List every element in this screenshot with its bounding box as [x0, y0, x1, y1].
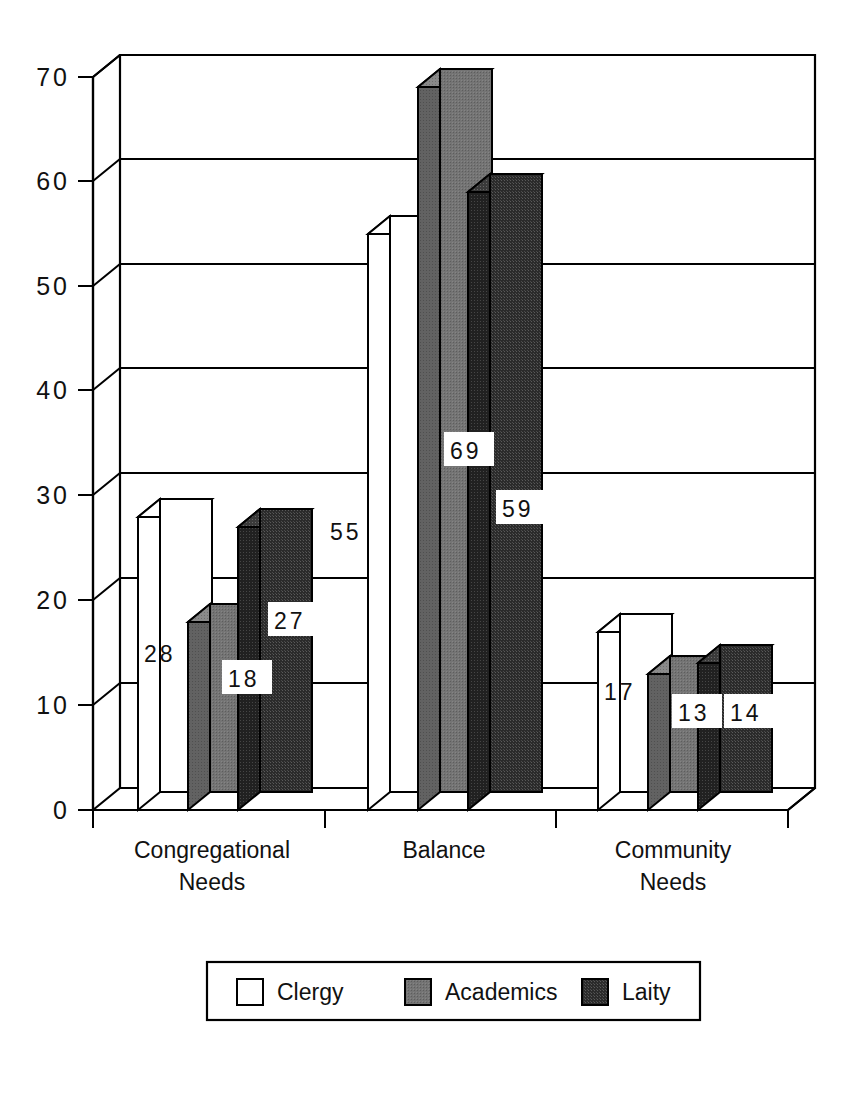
x-axis-ticks	[93, 810, 788, 828]
y-tick-0: 0	[53, 796, 70, 824]
y-tick-60: 60	[36, 167, 70, 195]
x-axis-category-labels: Congregational Needs Balance Community N…	[134, 837, 732, 895]
data-label-academics-balance: 69	[450, 438, 482, 464]
y-tick-50: 50	[36, 272, 70, 300]
y-tick-40: 40	[36, 376, 70, 404]
legend-label-academics: Academics	[445, 979, 557, 1005]
legend-swatch-laity-icon	[582, 979, 608, 1005]
legend-swatch-academics-icon	[405, 979, 431, 1005]
y-axis-ticks	[78, 77, 93, 810]
legend-label-clergy: Clergy	[277, 979, 344, 1005]
data-label-academics-congregational: 18	[228, 666, 260, 692]
y-tick-20: 20	[36, 586, 70, 614]
data-label-laity-community: 14	[730, 700, 762, 726]
y-axis-labels: 70 60 50 40 30 20 10 0	[36, 63, 70, 824]
data-label-clergy-balance: 55	[330, 519, 362, 545]
data-label-clergy-community: 17	[604, 679, 636, 705]
chart-canvas: 70 60 50 40 30 20 10 0	[0, 0, 862, 1094]
data-label-laity-congregational: 27	[274, 608, 306, 634]
bar-laity-congregational-needs	[238, 509, 312, 810]
category-label-congregational-line1: Congregational	[134, 837, 290, 863]
legend-label-laity: Laity	[622, 979, 671, 1005]
y-tick-70: 70	[36, 63, 70, 91]
bar-chart: 70 60 50 40 30 20 10 0	[0, 0, 862, 1094]
y-tick-10: 10	[36, 691, 70, 719]
category-label-balance: Balance	[402, 837, 485, 863]
data-label-clergy-congregational: 28	[144, 641, 176, 667]
data-label-academics-community: 13	[678, 700, 710, 726]
category-label-community-line2: Needs	[640, 869, 706, 895]
data-label-laity-balance: 59	[502, 496, 534, 522]
category-label-community-line1: Community	[615, 837, 732, 863]
legend-swatch-clergy-icon	[237, 979, 263, 1005]
category-label-congregational-line2: Needs	[179, 869, 245, 895]
y-tick-30: 30	[36, 481, 70, 509]
legend: Clergy Academics Laity	[207, 962, 700, 1020]
